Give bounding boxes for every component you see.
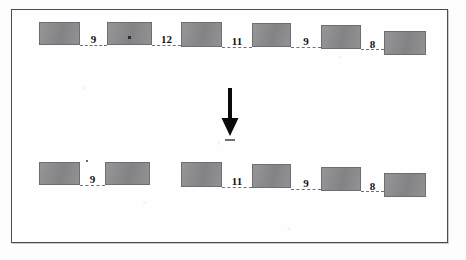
bottom-box-2: [105, 162, 150, 185]
bottom-box-6: [384, 173, 426, 197]
scan-speck: [86, 160, 88, 162]
bottom-box-1: [39, 162, 80, 185]
bottom-row-after: 9 11 9 8: [12, 10, 449, 130]
figure-frame: 9 12 11 9 8 9 11 9: [11, 9, 448, 243]
scanned-page: 9 12 11 9 8 9 11 9: [0, 0, 466, 260]
bottom-gap-label-2: 11: [222, 176, 252, 187]
bottom-gap-label-4: 8: [361, 181, 384, 192]
bottom-connector-3: [291, 189, 321, 190]
bottom-connector-2: [222, 187, 252, 188]
bottom-gap-label-3: 9: [291, 178, 321, 189]
bottom-box-4: [252, 164, 291, 188]
bottom-connector-1: [80, 185, 105, 186]
bottom-gap-label-1: 9: [80, 174, 105, 185]
bottom-box-5: [321, 167, 361, 191]
bottom-box-3: [181, 162, 222, 187]
